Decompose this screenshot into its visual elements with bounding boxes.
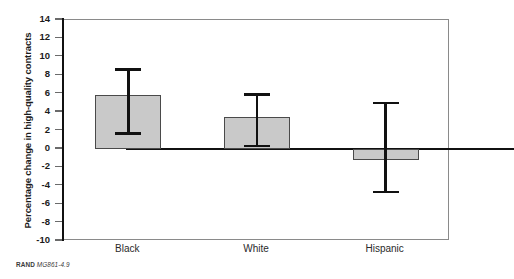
y-tick-label: 12 — [4, 32, 50, 42]
y-tick-label: -6 — [4, 198, 50, 208]
y-tick-6 — [55, 92, 62, 93]
error-bar-cap-lower-hispanic — [373, 191, 399, 194]
y-tick-neg4 — [55, 184, 62, 185]
error-bar-cap-lower-black — [115, 132, 141, 135]
error-bar-line-black — [127, 70, 130, 134]
source-code: MG861-4.9 — [37, 261, 70, 268]
y-axis-spine — [62, 18, 64, 241]
y-tick-neg6 — [55, 203, 62, 204]
y-tick-label: 6 — [4, 88, 50, 98]
y-tick-neg10 — [55, 239, 62, 240]
y-tick-label: 4 — [4, 106, 50, 116]
y-tick-label: 14 — [4, 14, 50, 24]
y-tick-label: -2 — [4, 161, 50, 171]
y-tick-neg2 — [55, 166, 62, 167]
y-tick-neg8 — [55, 221, 62, 222]
y-tick-label: 8 — [4, 69, 50, 79]
x-axis-label-white: White — [192, 243, 321, 254]
error-bar-cap-lower-white — [244, 145, 270, 148]
y-tick-0 — [55, 147, 62, 148]
y-tick-14 — [55, 18, 62, 19]
error-bar-line-hispanic — [384, 103, 387, 192]
y-tick-label: -8 — [4, 217, 50, 227]
y-tick-4 — [55, 110, 62, 111]
plot-area — [63, 19, 449, 240]
error-bar-cap-upper-hispanic — [373, 102, 399, 105]
y-tick-label: -10 — [4, 235, 50, 245]
source-publisher: RAND — [16, 261, 35, 268]
error-bar-cap-upper-black — [115, 68, 141, 71]
y-tick-8 — [55, 74, 62, 75]
y-tick-2 — [55, 129, 62, 130]
error-bar-line-white — [256, 95, 259, 147]
y-tick-10 — [55, 55, 62, 56]
y-tick-label: 0 — [4, 143, 50, 153]
x-axis-label-hispanic: Hispanic — [320, 243, 449, 254]
x-axis-label-black: Black — [63, 243, 192, 254]
error-bar-cap-upper-white — [244, 93, 270, 96]
y-tick-label: 2 — [4, 125, 50, 135]
y-tick-label: -4 — [4, 180, 50, 190]
zero-baseline — [126, 148, 514, 150]
source-note: RAND MG861-4.9 — [16, 261, 70, 268]
y-tick-label: 10 — [4, 51, 50, 61]
y-tick-12 — [55, 37, 62, 38]
